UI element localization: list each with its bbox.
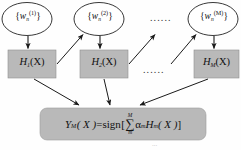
symbol-h-2: H xyxy=(91,56,99,67)
label-weights-m: {wn(M)} xyxy=(191,12,237,22)
subscript-w-1: n xyxy=(26,16,29,22)
label-classifier-1: H1(X) xyxy=(8,57,56,68)
arrow-h2-to-ellipsis xyxy=(129,35,155,65)
label-output-formula: YM( X )=sign[M∑mαmHm( X )] xyxy=(40,112,206,136)
subscript-h-m: M xyxy=(211,62,216,68)
output-lhs-argument: ( X ) xyxy=(77,119,97,130)
output-term-subscript: m xyxy=(153,123,157,129)
subscript-w-2: n xyxy=(98,16,101,22)
label-classifier-m: HM(X) xyxy=(194,57,239,68)
brace-close-m: } xyxy=(223,11,228,21)
symbol-h-m: H xyxy=(203,56,211,67)
brace-close-2: } xyxy=(108,11,113,21)
arrow-h2-to-output xyxy=(104,79,110,105)
brace-close-1: } xyxy=(36,11,41,21)
output-term-argument: ( X ) xyxy=(158,119,178,130)
superscript-w-1: (1) xyxy=(29,9,36,16)
subscript-h-2: 2 xyxy=(99,62,102,68)
symbol-w-m: w xyxy=(205,11,211,21)
label-weights-2: {wn(2)} xyxy=(79,12,121,22)
output-alpha-subscript: m xyxy=(141,123,145,129)
summation-operator: M∑m xyxy=(125,113,134,135)
output-bracket-open: [ xyxy=(121,119,125,130)
subscript-h-1: 1 xyxy=(27,62,30,68)
output-function: sign xyxy=(102,119,120,130)
symbol-h-1: H xyxy=(19,56,27,67)
arrow-ellipsis-to-wm xyxy=(171,35,196,65)
argument-h-2: (X) xyxy=(102,56,117,67)
argument-h-m: (X) xyxy=(216,56,231,67)
superscript-w-2: (2) xyxy=(101,9,108,16)
superscript-w-m: (M) xyxy=(214,9,224,16)
ellipsis-middle: ...... xyxy=(143,64,165,75)
bottom-artifact: ... xyxy=(152,140,157,148)
ellipsis-top: ...... xyxy=(150,12,172,23)
label-classifier-2: H2(X) xyxy=(80,57,128,68)
output-term-symbol: H xyxy=(145,119,153,130)
diagram-canvas: {wn(1)} {wn(2)} {wn(M)} ...... H1(X) H2(… xyxy=(0,0,241,150)
argument-h-1: (X) xyxy=(30,56,45,67)
label-weights-1: {wn(1)} xyxy=(7,12,49,22)
sum-lower-limit: m xyxy=(128,130,132,135)
subscript-w-m: n xyxy=(211,16,214,22)
output-lhs-subscript: M xyxy=(71,123,76,129)
output-bracket-close: ] xyxy=(177,119,181,130)
sigma-icon: ∑ xyxy=(125,118,134,129)
arrow-h1-to-output xyxy=(34,79,79,105)
arrow-hm-to-output xyxy=(140,79,208,105)
